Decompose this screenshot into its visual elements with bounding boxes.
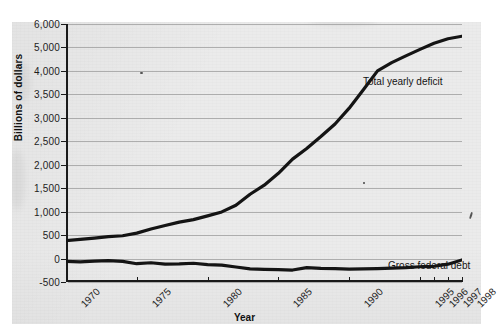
y-axis-tick bbox=[61, 282, 66, 283]
x-axis-tick-label: 1980 bbox=[220, 286, 244, 310]
y-axis-tick-label: 6,000 bbox=[34, 19, 60, 30]
torn-edge-bottom bbox=[0, 324, 489, 334]
y-axis-tick-label: 500 bbox=[43, 230, 60, 241]
series-label-gross-federal-debt: Gross federal debt bbox=[388, 260, 470, 271]
y-axis-tick-label: 2,500 bbox=[34, 136, 60, 147]
y-axis-tick-label: 2,000 bbox=[34, 159, 60, 170]
y-axis-tick-label: 1,000 bbox=[34, 206, 60, 217]
x-axis-title: Year bbox=[0, 312, 489, 323]
line-total-yearly-deficit bbox=[66, 36, 462, 241]
torn-edge-top bbox=[0, 0, 489, 22]
plot-area: Total yearly deficit Gross federal debt bbox=[66, 24, 462, 282]
y-axis-tick-label: 3,500 bbox=[34, 89, 60, 100]
x-axis-tick-label: 1990 bbox=[362, 286, 386, 310]
series-label-total-yearly-deficit: Total yearly deficit bbox=[363, 76, 442, 87]
y-axis-tick-label: 0 bbox=[54, 253, 60, 264]
y-axis-tick-label: 5,000 bbox=[34, 42, 60, 53]
y-axis-tick-label: 1,500 bbox=[34, 183, 60, 194]
y-axis-tick-label: 4,000 bbox=[34, 65, 60, 76]
torn-edge-right bbox=[481, 0, 489, 334]
gridline bbox=[68, 282, 462, 283]
series-lines bbox=[66, 24, 462, 282]
y-axis-tick-label: 3,000 bbox=[34, 112, 60, 123]
x-axis-tick-label: 1975 bbox=[149, 286, 173, 310]
y-axis-tick-labels: 6,0005,0004,0003,5003,0002,5002,0001,500… bbox=[0, 24, 60, 282]
y-axis-tick-label: -500 bbox=[39, 277, 60, 288]
x-axis-tick-label: 1970 bbox=[79, 286, 103, 310]
x-axis-tick-label: 1985 bbox=[291, 286, 315, 310]
x-axis-tick bbox=[462, 277, 463, 282]
